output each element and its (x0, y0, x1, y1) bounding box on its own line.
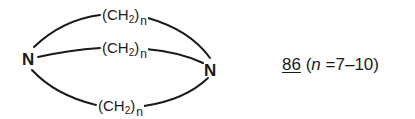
group-formula: (CH (102, 6, 129, 23)
group-close-paren: ) (130, 97, 135, 114)
bottom-bridge-label: (CH2)n (97, 98, 144, 116)
caption-range: 7–10 (335, 55, 373, 74)
top-bridge-label: (CH2)n (101, 7, 148, 25)
caption-equals: = (326, 55, 336, 74)
compound-number: 86 (282, 55, 301, 74)
top-bridge-right-bond (148, 18, 210, 58)
group-index: n (136, 105, 143, 119)
top-bridge-left-bond (34, 15, 100, 47)
compound-caption: 86 (n =7–10) (282, 56, 379, 73)
middle-bridge-label: (CH2)n (101, 40, 148, 58)
caption-variable: n (311, 55, 320, 74)
bottom-bridge-left-bond (32, 70, 96, 105)
group-formula: (CH (102, 39, 129, 56)
bicyclic-diamine-diagram: N N (CH2)n (CH2)n (CH2)n 86 (n =7–10) (0, 0, 415, 119)
middle-bridge-left-bond (38, 48, 100, 57)
bottom-bridge-right-bond (144, 78, 208, 106)
nitrogen-atom-left: N (22, 51, 34, 68)
middle-bridge-right-bond (146, 49, 203, 63)
group-close-paren: ) (134, 6, 139, 23)
nitrogen-atom-right: N (204, 62, 216, 79)
caption-close-paren: ) (373, 55, 379, 74)
group-close-paren: ) (134, 39, 139, 56)
group-formula: (CH (98, 97, 125, 114)
group-index: n (140, 14, 147, 28)
group-index: n (140, 47, 147, 61)
